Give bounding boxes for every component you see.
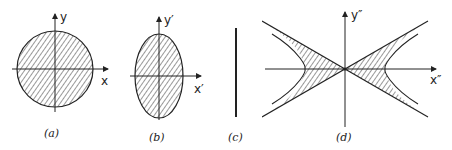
panel-a: x y (a) [12, 10, 108, 140]
origin-point [343, 67, 346, 70]
y-axis-label: y″ [351, 8, 363, 22]
panel-d: x″ y″ (d) [262, 8, 442, 144]
caption-b: (b) [149, 131, 165, 144]
x-axis-label: x″ [430, 73, 442, 87]
panel-b: x′ y′ (b) [130, 13, 204, 144]
x-axis-label: x [101, 74, 108, 88]
x-axis-label: x′ [194, 82, 204, 96]
y-axis-label: y [60, 10, 67, 24]
diagram-canvas: x y (a) x′ y′ (b) (c) x″ [0, 0, 452, 150]
y-axis-label: y′ [164, 13, 174, 27]
caption-d: (d) [336, 131, 352, 144]
caption-a: (a) [44, 127, 59, 140]
panel-c: (c) [228, 28, 243, 144]
caption-c: (c) [228, 131, 243, 144]
